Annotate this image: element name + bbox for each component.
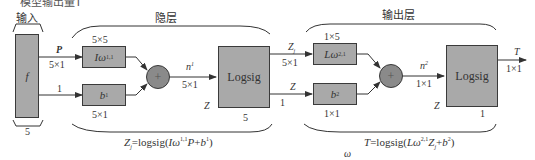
- output-sum-node: +: [379, 64, 403, 88]
- hidden-layer-title: 隐层: [155, 9, 177, 25]
- output-weight-sup: 2,1: [338, 51, 346, 57]
- output-net-label: n2: [420, 60, 428, 71]
- output-layer-title: 输出层: [382, 6, 415, 22]
- output-bias-input-one: 1: [280, 97, 285, 108]
- input-layer-title: 输入: [16, 9, 38, 25]
- hidden-size-label: 5: [243, 112, 248, 123]
- output-weight-box: Lω2,1: [313, 43, 357, 65]
- output-bias-sup: 2: [336, 91, 339, 97]
- hidden-weight-box: Iω1,1: [82, 46, 126, 68]
- output-size-label: 1: [480, 108, 485, 119]
- input-block-label: f: [25, 70, 28, 82]
- hidden-weight-sup: 1,1: [106, 54, 114, 60]
- hidden-logsig-box: Logsig: [218, 46, 270, 108]
- hidden-bias-sup: 1: [105, 92, 108, 98]
- output-transfer-label: Logsig: [455, 69, 488, 84]
- output-t-dim: 1×1: [506, 63, 522, 74]
- plus-icon: +: [388, 69, 395, 84]
- hidden-sum-node: +: [146, 65, 170, 89]
- output-bias-dim: 1×1: [324, 108, 340, 119]
- hidden-net-label: n1: [186, 61, 194, 72]
- hidden-weight-label: Iω: [95, 51, 106, 63]
- output-weight-label: Lω: [324, 48, 338, 60]
- hidden-bias-dim: 5×1: [92, 109, 108, 120]
- zj-dim: 5×1: [282, 57, 298, 68]
- output-logsig-box: Logsig: [446, 45, 498, 107]
- input-p-label: P: [56, 44, 62, 55]
- hidden-formula: Zj=logsig(Iω1,1P+b1): [124, 136, 213, 150]
- input-block-f: f: [15, 34, 39, 118]
- hidden-weight-dim: 5×5: [92, 34, 108, 45]
- output-weight-dim: 1×5: [324, 31, 340, 42]
- output-t-label: T: [514, 46, 520, 57]
- hidden-net-dim: 5×1: [182, 79, 198, 90]
- input-p-dim: 5×1: [49, 59, 65, 70]
- z-lower-label: Z: [290, 81, 296, 92]
- output-bias-box: b2: [313, 83, 357, 105]
- input-size-label: 5: [25, 126, 30, 137]
- output-z-label: Z: [434, 100, 440, 111]
- zj-label: Zj: [288, 41, 295, 54]
- hidden-transfer-label: Logsig: [227, 70, 260, 85]
- hidden-bias-box: b1: [82, 84, 126, 106]
- bias-input-one: 1: [57, 83, 62, 94]
- output-net-dim: 1×1: [416, 78, 432, 89]
- hidden-z-label: Z: [204, 100, 210, 111]
- footer-omega: ω: [344, 148, 351, 159]
- output-formula: T=logsig(Lω2,1Zj+b2): [364, 136, 454, 150]
- plus-icon: +: [155, 70, 162, 85]
